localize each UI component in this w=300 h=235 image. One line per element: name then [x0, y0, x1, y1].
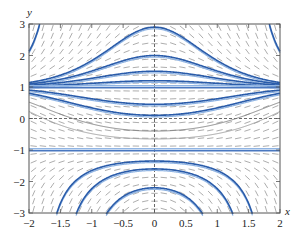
slope-segment — [133, 185, 139, 187]
slope-segment — [97, 199, 101, 204]
slope-segment — [96, 106, 102, 107]
slope-segment — [86, 138, 92, 139]
slope-segment — [207, 122, 213, 123]
x-tick-labels: −2−1.5−1−0.500.511.52 — [23, 217, 283, 229]
slope-segment — [254, 129, 260, 131]
slope-segment — [77, 154, 83, 155]
slope-segment — [86, 66, 92, 69]
slope-segment — [254, 137, 260, 139]
slope-segment — [263, 129, 269, 131]
slope-segment — [133, 177, 139, 178]
slope-segment — [69, 41, 72, 46]
slope-segment — [209, 25, 212, 30]
slope-segment — [40, 129, 46, 131]
slope-segment — [161, 51, 167, 52]
slope-segment — [78, 191, 82, 196]
slope-segment — [236, 49, 240, 54]
slope-segment — [86, 130, 92, 131]
slope-segment — [255, 183, 259, 188]
slope-segment — [114, 50, 120, 53]
slope-segment — [50, 57, 54, 62]
slope-segment — [79, 25, 82, 31]
slope-segment — [235, 66, 241, 69]
slope-segment — [41, 57, 45, 62]
slope-segment — [87, 49, 92, 53]
slope-segment — [254, 161, 260, 163]
slope-segment — [189, 106, 195, 107]
slope-segment — [30, 146, 36, 147]
slope-segment — [40, 74, 46, 76]
slope-segment — [216, 74, 222, 75]
slope-segment — [32, 175, 36, 180]
slope-segment — [114, 161, 120, 162]
slope-segment — [237, 33, 240, 39]
slope-segment — [88, 206, 91, 212]
slope-segment — [40, 113, 46, 116]
slope-segment — [68, 57, 73, 61]
slope-segment — [86, 114, 92, 116]
slope-segment — [189, 191, 194, 195]
slope-segment — [272, 154, 278, 155]
slope-segment — [273, 168, 278, 172]
slope-segment — [244, 154, 250, 155]
slope-segment — [58, 161, 64, 163]
slope-segment — [189, 58, 195, 60]
slope-segment — [265, 25, 267, 31]
slope-segment — [60, 49, 64, 54]
slope-segment — [245, 57, 250, 61]
slope-segment — [161, 185, 167, 186]
slope-segment — [96, 75, 102, 76]
slope-segment — [256, 25, 258, 31]
slope-segment — [274, 190, 277, 196]
slope-segment — [235, 138, 241, 139]
slope-segment — [96, 114, 102, 115]
slope-segment — [227, 33, 230, 39]
slope-segment — [170, 200, 176, 203]
slope-segment — [123, 106, 129, 107]
slope-segment — [263, 74, 269, 76]
slope-segment — [68, 129, 74, 131]
slope-segment — [218, 33, 221, 38]
slope-segment — [198, 122, 204, 123]
slope-segment — [77, 114, 83, 116]
slope-segment — [254, 113, 260, 115]
slope-segment — [265, 33, 267, 39]
slope-segment — [189, 34, 194, 38]
slope-segment — [59, 66, 64, 69]
slope-segment — [199, 42, 204, 46]
slope-segment — [58, 154, 64, 155]
slope-segment — [208, 41, 212, 46]
slope-segment — [142, 35, 148, 36]
slope-segment — [142, 193, 148, 194]
slope-segment — [77, 161, 83, 163]
slope-segment — [70, 206, 72, 212]
slope-segment — [179, 106, 185, 107]
slope-segment — [68, 154, 74, 155]
slope-segment — [96, 138, 102, 139]
slope-segment — [207, 106, 213, 107]
slope-segment — [216, 161, 222, 162]
slope-segment — [114, 67, 120, 69]
slope-segment — [58, 91, 64, 92]
slope-segment — [189, 130, 195, 131]
slope-segment — [123, 67, 129, 68]
y-tick-label: −3 — [13, 207, 25, 219]
slope-field-chart: −2−1.5−1−0.500.511.52 −3−2−10123 x y — [0, 0, 300, 235]
slope-segment — [42, 190, 45, 196]
slope-segment — [237, 25, 239, 31]
slope-segment — [263, 161, 269, 163]
y-tick-label: 1 — [20, 81, 26, 93]
slope-segment — [58, 129, 64, 131]
y-tick-label: 3 — [20, 18, 26, 30]
slope-segment — [41, 49, 44, 54]
slope-segment — [207, 130, 213, 131]
slope-segment — [207, 114, 213, 115]
y-tick-label: 2 — [20, 50, 26, 62]
slope-segment — [105, 106, 111, 107]
slope-segment — [40, 121, 46, 124]
slope-segment — [68, 138, 74, 139]
slope-segment — [227, 49, 231, 54]
slope-segment — [226, 58, 231, 62]
slope-segment — [161, 193, 167, 194]
slope-segment — [189, 184, 195, 187]
